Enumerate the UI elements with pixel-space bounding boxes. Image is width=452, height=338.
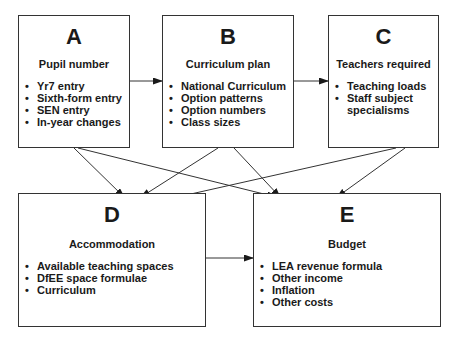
edge-b-to-d: [141, 148, 218, 197]
list-item: DfEE space formulae: [25, 272, 205, 284]
node-title: Teachers required: [329, 58, 438, 70]
list-item: National Curriculum: [169, 80, 293, 92]
list-item: Sixth-form entry: [25, 92, 129, 104]
list-item: Available teaching spaces: [25, 260, 205, 272]
list-item: Other costs: [260, 296, 440, 308]
edge-a-to-e: [78, 148, 276, 197]
list-item: In-year changes: [25, 116, 129, 128]
node-title: Budget: [254, 238, 440, 250]
node-letter: E: [254, 204, 440, 226]
node-letter: C: [329, 26, 438, 48]
node-title: Accommodation: [19, 238, 205, 250]
edge-a-to-d: [74, 148, 124, 197]
node-item-list: Teaching loads Staff subject specialisms: [329, 80, 438, 116]
node-letter: D: [19, 204, 205, 226]
list-item: Class sizes: [169, 116, 293, 128]
node-item-list: Available teaching spaces DfEE space for…: [19, 260, 205, 296]
node-curriculum-plan: B Curriculum plan National Curriculum Op…: [162, 15, 294, 148]
list-item: Yr7 entry: [25, 80, 129, 92]
list-item: Inflation: [260, 284, 440, 296]
list-item: Option patterns: [169, 92, 293, 104]
edge-c-to-e: [337, 148, 405, 197]
node-title: Pupil number: [19, 58, 129, 70]
node-pupil-number: A Pupil number Yr7 entry Sixth-form entr…: [18, 15, 130, 148]
list-item: Staff subject specialisms: [335, 92, 438, 116]
node-item-list: LEA revenue formula Other income Inflati…: [254, 260, 440, 308]
node-title: Curriculum plan: [163, 58, 293, 70]
node-letter: B: [163, 26, 293, 48]
node-item-list: National Curriculum Option patterns Opti…: [163, 80, 293, 128]
node-budget: E Budget LEA revenue formula Other incom…: [253, 193, 441, 327]
node-letter: A: [19, 26, 129, 48]
node-teachers-required: C Teachers required Teaching loads Staff…: [328, 15, 439, 148]
list-item: Teaching loads: [335, 80, 438, 92]
list-item: LEA revenue formula: [260, 260, 440, 272]
node-item-list: Yr7 entry Sixth-form entry SEN entry In-…: [19, 80, 129, 128]
list-item: Curriculum: [25, 284, 205, 296]
list-item: SEN entry: [25, 104, 129, 116]
node-accommodation: D Accommodation Available teaching space…: [18, 193, 206, 327]
list-item: Other income: [260, 272, 440, 284]
edge-b-to-e: [234, 148, 280, 197]
list-item: Option numbers: [169, 104, 293, 116]
